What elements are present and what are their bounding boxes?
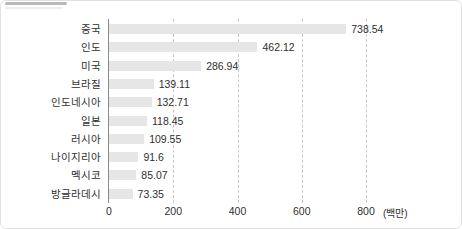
- bar-value-label: 91.6: [143, 148, 163, 166]
- bar-value-label: 462.12: [262, 38, 294, 56]
- bar-value-label: 738.54: [351, 20, 383, 38]
- category-label: 브라질: [1, 75, 101, 93]
- x-tick-label-400: 400: [229, 205, 247, 217]
- x-tick-label-200: 200: [164, 205, 182, 217]
- category-label: 인도: [1, 38, 101, 56]
- bar: [109, 170, 136, 180]
- bar: [109, 116, 147, 126]
- bar-row: 멕시코85.07: [1, 166, 462, 184]
- x-axis-unit-label: (백만): [383, 205, 408, 220]
- bar-value-label: 109.55: [149, 130, 181, 148]
- bar-row: 러시아109.55: [1, 130, 462, 148]
- category-label: 방글라데시: [1, 185, 101, 203]
- bar: [109, 189, 133, 199]
- bar: [109, 97, 152, 107]
- bar-row: 나이지리아91.6: [1, 148, 462, 166]
- bar-value-label: 85.07: [141, 166, 167, 184]
- bar-chart-plot: 중국738.54인도462.12미국286.94브라질139.11인도네시아13…: [1, 1, 462, 229]
- bar-row: 인도462.12: [1, 38, 462, 56]
- bar-value-label: 73.35: [138, 185, 164, 203]
- bar: [109, 79, 154, 89]
- category-label: 중국: [1, 20, 101, 38]
- bar: [109, 152, 138, 162]
- category-label: 나이지리아: [1, 148, 101, 166]
- category-label: 인도네시아: [1, 93, 101, 111]
- category-label: 멕시코: [1, 166, 101, 184]
- x-tick-label-0: 0: [106, 205, 112, 217]
- bar-value-label: 139.11: [159, 75, 190, 93]
- bar-value-label: 118.45: [152, 112, 183, 130]
- category-label: 일본: [1, 112, 101, 130]
- bar-row: 방글라데시73.35: [1, 185, 462, 203]
- bar-value-label: 132.71: [157, 93, 189, 111]
- bar: [109, 42, 257, 52]
- bar-row: 브라질139.11: [1, 75, 462, 93]
- category-label: 러시아: [1, 130, 101, 148]
- x-tick-label-600: 600: [293, 205, 311, 217]
- bar-value-label: 286.94: [206, 57, 238, 75]
- chart-card: 중국738.54인도462.12미국286.94브라질139.11인도네시아13…: [0, 0, 462, 229]
- bar: [109, 61, 201, 71]
- bar-row: 미국286.94: [1, 57, 462, 75]
- bar: [109, 24, 346, 34]
- x-tick-label-800: 800: [357, 205, 375, 217]
- bar-row: 일본118.45: [1, 112, 462, 130]
- category-label: 미국: [1, 57, 101, 75]
- bar-row: 인도네시아132.71: [1, 93, 462, 111]
- bar-row: 중국738.54: [1, 20, 462, 38]
- bar: [109, 134, 144, 144]
